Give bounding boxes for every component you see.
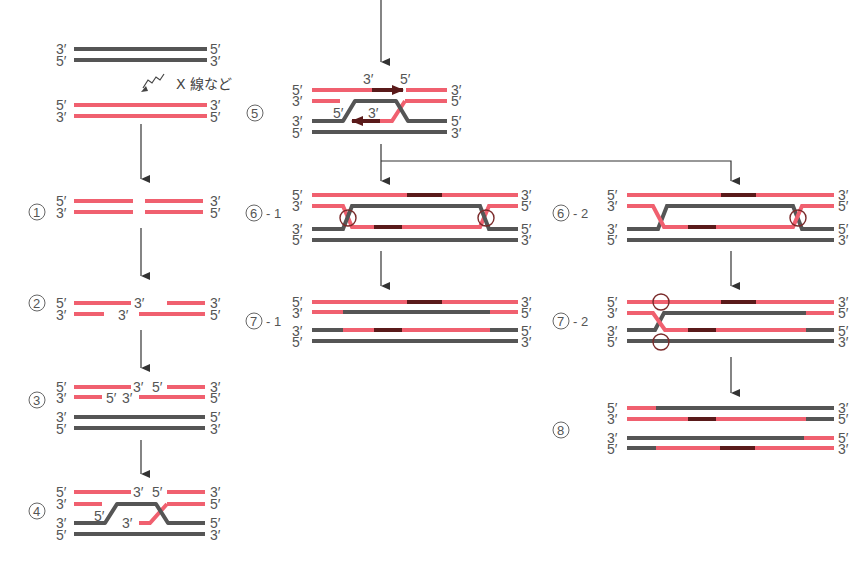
end-label: 3′ — [134, 295, 145, 311]
step-1-double-strand-break: 1 5′ 3′ 3′ 5′ — [29, 193, 221, 221]
step-3-homolog-alignment: 3 5′ 3′ 3′ 5′ 3′ 5′ 5′ 3′ 3′ 5′ 5′ 3′ — [29, 379, 221, 437]
end-label: 5′ — [152, 379, 163, 395]
homologous-recombination-diagram: 3′ 5′ 5′ 3′ X 線など 5′ 3′ 3′ 5′ 1 5′ 3′ 3′… — [0, 0, 867, 571]
end-label: 3′ — [122, 390, 133, 406]
end-label: 3′ — [607, 198, 618, 214]
step-number: 3 — [33, 393, 40, 408]
end-label: 3′ — [363, 71, 374, 87]
end-label: 3′ — [210, 421, 221, 437]
step-4-strand-invasion: 4 5′ 3′ 3′ 5′ 3′ 5′ 5′ 3′ 3′ 5′ 5′ 3′ — [29, 484, 221, 543]
step-7-2-resolution: 7 - 2 5′ 3′ 3′ 5′ 3′ 5′ 5′ 3′ — [553, 294, 849, 350]
end-label: 5′ — [292, 232, 303, 248]
step-7-1-non-crossover-product: 7 - 1 5′ 3′ 3′ 5′ 3′ 5′ 5′ 3′ — [246, 294, 532, 350]
end-label: 5′ — [521, 198, 532, 214]
end-label: 3′ — [118, 307, 129, 323]
end-label: 5′ — [451, 93, 462, 109]
xray-annotation: X 線など — [176, 76, 232, 92]
end-label: 5′ — [292, 125, 303, 141]
step-8-crossover-product: 8 5′ 3′ 3′ 5′ 3′ 5′ 5′ 3′ — [553, 400, 849, 457]
end-label: 3′ — [368, 105, 379, 121]
end-label: 3′ — [56, 205, 67, 221]
end-label: 5′ — [607, 232, 618, 248]
end-label: 3′ — [838, 232, 849, 248]
end-label: 5′ — [838, 198, 849, 214]
end-label: 5′ — [521, 305, 532, 321]
end-label: 3′ — [292, 93, 303, 109]
end-label: 5′ — [210, 390, 221, 406]
branch-arrow — [381, 161, 731, 181]
end-label: 3′ — [122, 515, 133, 531]
step-number: 6 — [557, 206, 564, 221]
end-label: 5′ — [607, 441, 618, 457]
end-label: 5′ — [106, 390, 117, 406]
step-6-2-holliday-junction: 6 - 2 5′ 3′ 3′ 5′ 3′ 5′ 5′ 3′ — [553, 187, 849, 248]
end-label: 3′ — [521, 334, 532, 350]
end-label: 5′ — [56, 421, 67, 437]
end-label: 3′ — [56, 496, 67, 512]
step-suffix: - 1 — [266, 206, 281, 221]
end-label: 3′ — [451, 125, 462, 141]
end-label: 3′ — [292, 198, 303, 214]
end-label: 3′ — [838, 334, 849, 350]
step-2-end-resection: 2 5′ 3′ 3′ 3′ 3′ 5′ — [29, 295, 221, 323]
end-label: 3′ — [521, 232, 532, 248]
end-label: 3′ — [607, 305, 618, 321]
end-label: 3′ — [607, 411, 618, 427]
end-label: 5′ — [333, 105, 344, 121]
end-label: 3′ — [133, 379, 144, 395]
end-label: 5′ — [400, 71, 411, 87]
end-label: 5′ — [210, 496, 221, 512]
end-label: 3′ — [838, 441, 849, 457]
step-5-dna-synthesis: 5 5′ 3′ 3′ 5′ 3′ 5′ 5′ 3′ 3′ 5′ 5′ 3′ — [247, 71, 462, 141]
step-number: 2 — [33, 296, 40, 311]
step-0-intact-dna: 3′ 5′ 5′ 3′ X 線など 5′ 3′ 3′ 5′ — [56, 41, 232, 125]
step-suffix: - 2 — [573, 206, 588, 221]
step-number: 7 — [250, 314, 257, 329]
step-number: 6 — [250, 206, 257, 221]
step-suffix: - 2 — [573, 314, 588, 329]
end-label: 5′ — [838, 305, 849, 321]
end-label: 5′ — [56, 527, 67, 543]
step-number: 7 — [557, 314, 564, 329]
step-suffix: - 1 — [266, 314, 281, 329]
step-number: 5 — [251, 106, 258, 121]
xray-lightning-icon — [141, 74, 164, 92]
end-label: 5′ — [210, 205, 221, 221]
end-label: 3′ — [210, 527, 221, 543]
end-label: 3′ — [56, 109, 67, 125]
end-label: 3′ — [133, 484, 144, 500]
end-label: 3′ — [56, 307, 67, 323]
step-number: 4 — [33, 504, 40, 519]
end-label: 5′ — [152, 484, 163, 500]
step-number: 1 — [33, 205, 40, 220]
end-label: 5′ — [56, 53, 67, 69]
end-label: 5′ — [292, 334, 303, 350]
step-6-1-double-holliday-junction: 6 - 1 5′ 3′ 3′ 5′ 3′ 5′ 5′ 3′ — [246, 187, 532, 248]
end-label: 5′ — [210, 307, 221, 323]
end-label: 3′ — [210, 53, 221, 69]
end-label: 5′ — [607, 334, 618, 350]
end-label: 3′ — [292, 305, 303, 321]
step-number: 8 — [557, 423, 564, 438]
end-label: 5′ — [210, 109, 221, 125]
end-label: 5′ — [838, 411, 849, 427]
end-label: 3′ — [56, 390, 67, 406]
end-label: 5′ — [94, 508, 105, 524]
